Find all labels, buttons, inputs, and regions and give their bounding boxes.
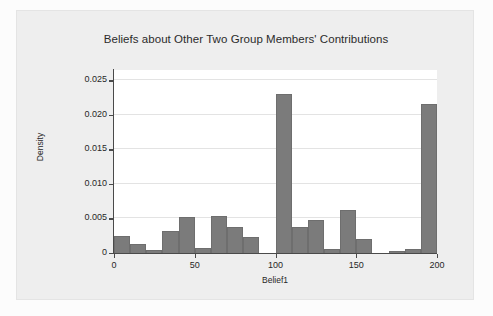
y-axis-tick-mark <box>109 149 113 150</box>
y-axis-tick-label: 0.020 <box>84 109 107 119</box>
y-axis-tick-mark <box>109 184 113 185</box>
x-axis-tick-label: 100 <box>256 260 296 270</box>
x-axis-tick-mark <box>276 254 277 258</box>
plot-area <box>114 70 437 253</box>
histogram-bar <box>340 210 356 253</box>
histogram-bar <box>179 217 195 253</box>
y-axis-tick-label: 0.025 <box>84 74 107 84</box>
histogram-bar <box>211 216 227 253</box>
y-axis-tick-mark <box>109 115 113 116</box>
x-axis-tick-label: 0 <box>94 260 134 270</box>
histogram-bar <box>421 104 437 253</box>
x-axis-tick-label: 150 <box>336 260 376 270</box>
histogram-bar <box>292 227 308 253</box>
histogram-bar <box>114 236 130 253</box>
y-axis-tick-label: 0.005 <box>84 212 107 222</box>
y-axis-line <box>113 69 114 254</box>
histogram-bar <box>130 244 146 253</box>
x-axis-tick-label: 200 <box>417 260 457 270</box>
y-axis-tick-label: 0.010 <box>84 178 107 188</box>
histogram-bar <box>308 220 324 253</box>
y-axis-tick-mark <box>109 218 113 219</box>
x-axis-title: Belief1 <box>113 275 437 285</box>
figure-root: Beliefs about Other Two Group Members' C… <box>0 0 493 316</box>
x-axis-tick-mark <box>356 254 357 258</box>
y-axis-title: Density <box>35 117 45 177</box>
y-axis-tick-label: 0.015 <box>84 143 107 153</box>
y-axis-tick-mark <box>109 253 113 254</box>
histogram-bar <box>162 231 178 253</box>
histogram-bar <box>227 227 243 253</box>
x-axis-tick-label: 50 <box>175 260 215 270</box>
chart-panel: Beliefs about Other Two Group Members' C… <box>16 10 474 300</box>
histogram-bar <box>276 94 292 253</box>
y-axis-tick-mark <box>109 80 113 81</box>
x-axis-tick-mark <box>114 254 115 258</box>
x-axis-tick-mark <box>437 254 438 258</box>
gridline-y <box>114 79 437 80</box>
y-axis-tick-label: 0 <box>102 247 107 257</box>
x-axis-tick-mark <box>195 254 196 258</box>
histogram-bar <box>356 239 372 254</box>
histogram-bar <box>243 237 259 253</box>
y-axis-tick-labels: 00.0050.0100.0150.0200.025 <box>17 11 107 301</box>
